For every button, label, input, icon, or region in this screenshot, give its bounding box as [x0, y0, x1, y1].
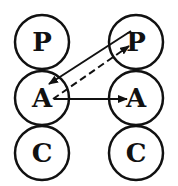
left-adult-label: A: [31, 83, 53, 113]
left-child-label: C: [32, 138, 53, 168]
right-child-node: C: [109, 126, 163, 180]
right-parent-node: P: [109, 15, 163, 69]
left-child-node: C: [15, 126, 69, 180]
dashed-arrow-left-a-to-right-p: [53, 46, 129, 99]
left-parent-node: P: [15, 15, 69, 69]
right-adult-label: A: [125, 83, 147, 113]
transactional-diagram: P A C P A C: [0, 0, 178, 186]
left-parent-label: P: [32, 27, 52, 57]
right-child-label: C: [126, 138, 147, 168]
